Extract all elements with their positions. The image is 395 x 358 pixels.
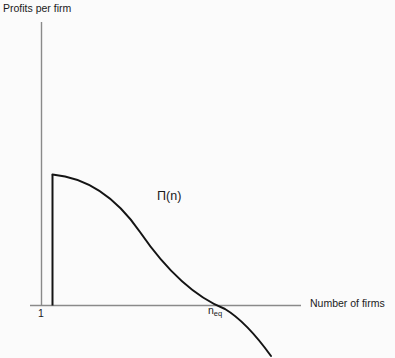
x-axis-label: Number of firms bbox=[310, 298, 385, 310]
x-tick-label-neq: neq bbox=[208, 305, 222, 317]
profit-curve-label: Π(n) bbox=[157, 190, 181, 204]
x-tick-neq-base: n bbox=[208, 304, 214, 316]
x-tick-label-one: 1 bbox=[38, 308, 44, 320]
y-axis-label: Profits per firm bbox=[3, 3, 71, 15]
x-tick-neq-subscript: eq bbox=[214, 309, 222, 318]
chart-figure: Profits per firm Number of firms 1 neq Π… bbox=[0, 0, 395, 358]
